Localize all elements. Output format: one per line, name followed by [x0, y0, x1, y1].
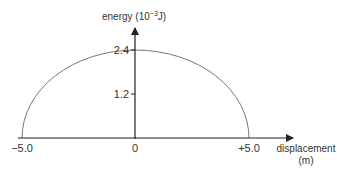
- x-tick-label-neg5: −5.0: [11, 142, 33, 154]
- x-axis-label-line1: displacement: [277, 143, 336, 154]
- energy-displacement-chart: 2.4 1.2 −5.0 0 +5.0 energy (10−3J) displ…: [0, 0, 337, 169]
- x-axis-label-line2: (m): [299, 155, 314, 166]
- y-tick-label-1.2: 1.2: [114, 88, 129, 100]
- x-tick-label-pos5: +5.0: [238, 142, 260, 154]
- y-axis-label-main: energy (10: [102, 11, 150, 22]
- y-axis-label: energy (10−3J): [102, 10, 166, 22]
- y-axis-label-sup: −3: [150, 10, 158, 17]
- y-tick-label-2.4: 2.4: [114, 44, 129, 56]
- x-tick-label-0: 0: [132, 142, 138, 154]
- y-axis-label-unit: J): [158, 11, 166, 22]
